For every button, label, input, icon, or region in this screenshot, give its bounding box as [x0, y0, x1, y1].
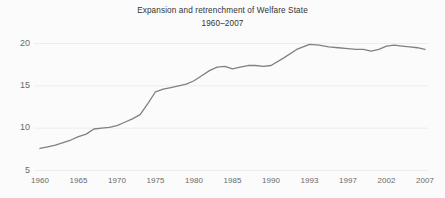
x-axis-tick-label: 1970 — [97, 176, 137, 185]
plot-area — [0, 0, 445, 198]
x-axis-tick-label: 1997 — [328, 176, 368, 185]
gridlines — [34, 44, 428, 171]
x-axis-tick-label: 1980 — [174, 176, 214, 185]
x-axis-tick-label: 1975 — [136, 176, 176, 185]
x-axis-tick-label: 2007 — [405, 176, 445, 185]
x-axis-tick-label: 1985 — [213, 176, 253, 185]
y-axis-tick-label: 15 — [8, 80, 30, 90]
x-axis-tick-label: 1990 — [251, 176, 291, 185]
line-chart: Expansion and retrenchment of Welfare St… — [0, 0, 445, 198]
y-axis-tick-label: 10 — [8, 122, 30, 132]
y-axis-tick-label: 20 — [8, 38, 30, 48]
data-series — [40, 44, 425, 148]
x-axis-tick-label: 1960 — [20, 176, 60, 185]
x-axis-tick-label: 2002 — [367, 176, 407, 185]
y-axis-tick-label: 5 — [8, 165, 30, 175]
x-axis-tick-label: 1993 — [290, 176, 330, 185]
x-axis-tick-label: 1965 — [59, 176, 99, 185]
series-line — [40, 44, 425, 148]
